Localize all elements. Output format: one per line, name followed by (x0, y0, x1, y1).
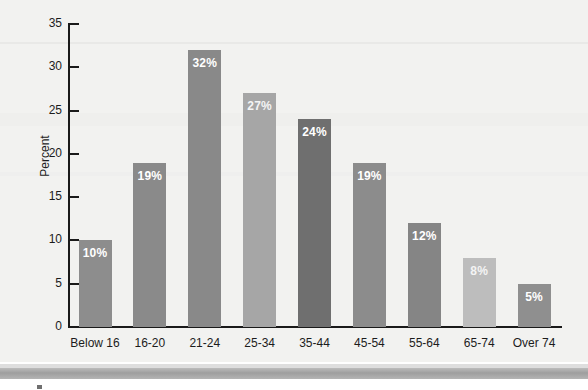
y-axis-tick-label: 35 (36, 17, 62, 29)
bar-value-label: 10% (79, 246, 112, 260)
y-axis-tick-label-text: 25 (38, 104, 62, 116)
bar-value-label: 12% (408, 229, 441, 243)
bar-value-label: 32% (188, 56, 221, 70)
chart-page: 35302520151050 Percent 10%19%32%27%24%19… (0, 0, 588, 390)
bar-value-label: 19% (353, 169, 386, 183)
plot-area: 10%19%32%27%24%19%12%8%5% (68, 24, 562, 327)
scan-artifact-speck (37, 385, 42, 389)
y-axis-tick-label-text: 30 (38, 60, 62, 72)
y-axis-tick-label-text: 10 (38, 233, 62, 245)
y-axis-tick-label: 30 (36, 60, 62, 72)
bar-value-label: 24% (298, 125, 331, 139)
y-axis-tick-label-text: 35 (38, 17, 62, 29)
y-axis-tick-label: 0 (36, 320, 62, 332)
y-axis-tick-label: 10 (36, 233, 62, 245)
bar: 5% (518, 284, 551, 327)
bar: 32% (188, 50, 221, 327)
bar: 12% (408, 223, 441, 327)
x-axis-tick-label: Over 74 (494, 336, 574, 350)
footer-decorative-band (0, 368, 588, 379)
bar: 8% (463, 258, 496, 327)
bar-value-label: 27% (243, 99, 276, 113)
bar-value-label: 5% (518, 290, 551, 304)
bar: 27% (243, 93, 276, 327)
bar-chart: 35302520151050 Percent 10%19%32%27%24%19… (0, 0, 588, 362)
y-axis-tick-label-text: 5 (38, 277, 62, 289)
y-axis-title: Percent (38, 116, 54, 196)
bar: 19% (353, 163, 386, 327)
bar: 24% (298, 119, 331, 327)
bar-value-label: 8% (463, 264, 496, 278)
bar: 10% (79, 240, 112, 327)
bar: 19% (133, 163, 166, 327)
y-axis-tick-label-text: 0 (38, 320, 62, 332)
bar-value-label: 19% (133, 169, 166, 183)
y-axis-tick-label: 25 (36, 104, 62, 116)
y-axis-tick-label: 5 (36, 277, 62, 289)
